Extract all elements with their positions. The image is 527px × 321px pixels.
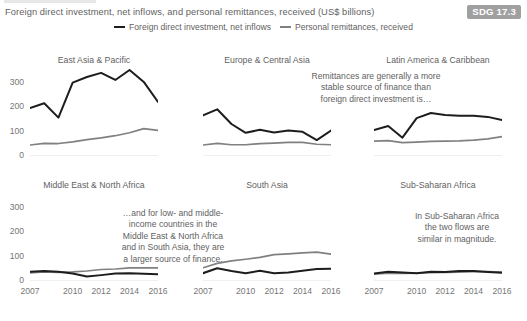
series-line-fdi: [30, 70, 158, 118]
x-tick-label: 2016: [317, 286, 345, 296]
top-clipped-rule: [4, 0, 96, 3]
x-tick-label: 2014: [460, 286, 488, 296]
y-tick-label: 300: [0, 202, 24, 212]
y-tick-label: 100: [0, 251, 24, 261]
y-tick-label: 200: [0, 226, 24, 236]
figure-title: Foreign direct investment, net inflows, …: [5, 7, 374, 17]
sdg-badge: SDG 17.3: [467, 5, 521, 19]
annotation-low-middle-income: …and for low- and middle- income countri…: [104, 208, 242, 265]
x-tick-label: 2010: [232, 286, 260, 296]
x-tick-label: 2016: [488, 286, 516, 296]
x-tick-label: 2010: [403, 286, 431, 296]
y-tick-label: 300: [0, 77, 24, 87]
series-line-fdi: [374, 113, 502, 138]
figure-root: Foreign direct investment, net inflows, …: [0, 0, 527, 321]
panel-title: East Asia & Pacific: [30, 55, 158, 65]
y-tick-label: 0: [0, 275, 24, 285]
series-line-fdi: [203, 109, 331, 140]
series-line-remittances: [203, 142, 331, 145]
annotation-ssa-similar: In Sub-Saharan Africa the two flows are …: [396, 211, 518, 245]
panel-east-asia-pacific: East Asia & Pacific: [30, 55, 158, 156]
x-tick-label: 2007: [360, 286, 388, 296]
panel-title: South Asia: [203, 180, 331, 190]
chart-legend: Foreign direct investment, net inflows P…: [0, 22, 527, 32]
x-tick-label: 2012: [431, 286, 459, 296]
x-tick-label: 2007: [189, 286, 217, 296]
plot-area: [30, 68, 158, 156]
x-tick-label: 2012: [87, 286, 115, 296]
legend-label-fdi: Foreign direct investment, net inflows: [129, 22, 271, 32]
legend-item-fdi: Foreign direct investment, net inflows: [114, 22, 271, 32]
y-tick-label: 100: [0, 126, 24, 136]
line-swatch-icon: [280, 26, 291, 29]
series-line-remittances: [30, 129, 158, 145]
series-line-fdi: [203, 268, 331, 273]
panel-title: Latin America & Caribbean: [374, 55, 502, 65]
panel-title: Sub-Saharan Africa: [374, 180, 502, 190]
line-swatch-icon: [114, 26, 125, 29]
x-tick-label: 2016: [144, 286, 172, 296]
annotation-remittances-stable: Remittances are generally a more stable …: [288, 71, 464, 105]
panel-title: Europe & Central Asia: [203, 55, 331, 65]
x-tick-label: 2010: [59, 286, 87, 296]
x-tick-label: 2012: [260, 286, 288, 296]
x-tick-label: 2014: [289, 286, 317, 296]
x-tick-label: 2007: [16, 286, 44, 296]
legend-label-remittances: Personal remittances, received: [295, 22, 413, 32]
x-tick-label: 2014: [116, 286, 144, 296]
series-line-remittances: [374, 137, 502, 143]
y-tick-label: 0: [0, 150, 24, 160]
series-line-fdi: [30, 271, 158, 277]
y-tick-label: 200: [0, 101, 24, 111]
legend-item-remittances: Personal remittances, received: [280, 22, 413, 32]
panel-title: Middle East & North Africa: [30, 180, 158, 190]
